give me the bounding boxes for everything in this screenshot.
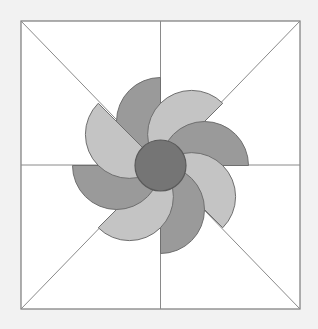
center-hub-circle	[135, 140, 186, 191]
figure-root	[0, 0, 318, 329]
pinwheel-figure	[0, 0, 318, 329]
